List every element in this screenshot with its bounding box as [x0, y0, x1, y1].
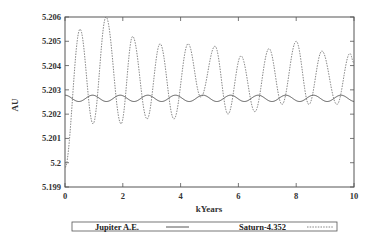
legend-label-saturn: Saturn-4.352 [239, 222, 286, 232]
y-tick-label: 5.202 [42, 109, 61, 119]
y-tick-label: 5.201 [42, 133, 61, 143]
x-tick-label: 0 [63, 191, 67, 201]
y-tick-label: 5.204 [42, 61, 62, 71]
y-tick-label: 5.199 [42, 182, 61, 192]
x-axis-title: kYears [196, 204, 223, 214]
x-tick-label: 6 [236, 191, 240, 201]
x-tick-label: 8 [294, 191, 298, 201]
series-saturn-line [65, 17, 354, 168]
y-axis-title: AU [10, 98, 20, 111]
plot-frame [65, 17, 354, 187]
series-layer [65, 17, 354, 168]
x-axis-ticks: 0246810 [63, 17, 358, 201]
legend-label-jupiter: Jupiter A.E. [95, 222, 139, 232]
x-tick-label: 4 [178, 191, 183, 201]
x-tick-label: 2 [121, 191, 125, 201]
y-tick-label: 5.205 [42, 36, 61, 46]
y-tick-label: 5.2 [50, 158, 61, 168]
y-tick-label: 5.203 [42, 85, 61, 95]
y-tick-label: 5.206 [42, 12, 61, 22]
legend: Jupiter A.E. Saturn-4.352 [72, 222, 337, 232]
series-jupiter-line [65, 95, 354, 101]
chart-canvas: 5.1995.25.2015.2025.2035.2045.2055.206 0… [0, 0, 376, 246]
x-tick-label: 10 [350, 191, 359, 201]
